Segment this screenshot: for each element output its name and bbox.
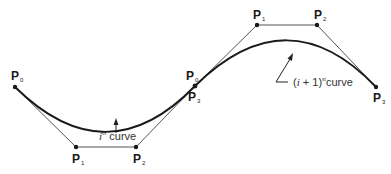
caption-curve-i-plus-1: (i + 1)stcurve: [293, 77, 353, 88]
point-i-p2: [134, 145, 138, 149]
point-i-p1: [74, 145, 78, 149]
label-i1-p0: P0: [186, 70, 198, 83]
point-i1-p3: [374, 85, 378, 89]
point-i1-p1: [255, 23, 259, 27]
label-i-p2: P2: [133, 153, 145, 166]
point-i1-p2: [315, 23, 319, 27]
label-i1-p3: P3: [373, 92, 385, 105]
label-i1-p2: P2: [314, 9, 326, 22]
label-i-p0: P0: [11, 70, 23, 83]
arrow-icon-curve-i-plus-1: [276, 53, 293, 82]
point-i-p0: [13, 85, 17, 89]
caption-curve-i: ith curve: [99, 131, 136, 142]
label-i1-p1: P1: [253, 9, 265, 22]
label-i-p3: P3: [188, 91, 200, 104]
point-joint: [193, 84, 198, 89]
label-i-p1: P1: [72, 153, 84, 166]
curve-i: [15, 86, 195, 132]
